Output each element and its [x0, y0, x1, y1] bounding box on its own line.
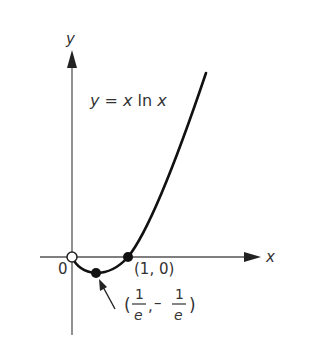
svg-text:1: 1	[135, 286, 144, 302]
y-axis-arrow-icon	[67, 50, 77, 68]
svg-text:(: (	[124, 295, 131, 315]
svg-text:e: e	[134, 307, 143, 323]
origin-open-point	[67, 252, 77, 262]
svg-text:e: e	[174, 307, 183, 323]
svg-text:1: 1	[175, 286, 184, 302]
graph-figure: x y 0 y = x ln x (1, 0) ( 1 e , – 1 e )	[0, 0, 311, 356]
equation-label: y = x ln x	[89, 91, 167, 110]
svg-text:,: ,	[148, 297, 153, 315]
x-axis-arrow-icon	[244, 252, 261, 262]
y-axis-label: y	[65, 30, 76, 48]
x-axis-label: x	[265, 248, 275, 266]
minimum-pointer-arrow-icon	[99, 279, 107, 291]
point-1-0	[123, 252, 133, 262]
svg-text:–: –	[154, 294, 162, 312]
point-1-0-label: (1, 0)	[134, 260, 174, 278]
minimum-point	[91, 268, 101, 278]
minimum-point-label: ( 1 e , – 1 e )	[124, 286, 196, 323]
svg-text:): )	[189, 295, 196, 315]
origin-label: 0	[58, 260, 68, 278]
